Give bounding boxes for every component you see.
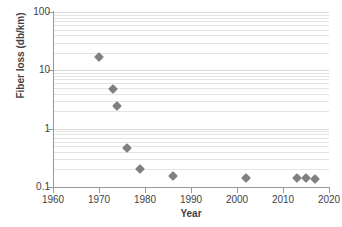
y-axis-tick-label: 1: [44, 124, 50, 134]
gridline: [53, 152, 329, 153]
x-axis-tick: [191, 188, 192, 193]
x-axis-tick: [237, 188, 238, 193]
gridline: [53, 35, 329, 36]
x-axis-tick: [145, 188, 146, 193]
gridline: [53, 169, 329, 170]
plot-area: [53, 12, 329, 187]
x-axis-tick-label: 1980: [125, 194, 165, 205]
x-axis-tick: [99, 188, 100, 193]
x-axis-tick-label: 2020: [309, 194, 342, 205]
x-axis-title: Year: [0, 208, 342, 219]
gridline: [53, 73, 329, 74]
y-axis-title: Fiber loss (db/km): [15, 0, 26, 131]
x-axis-tick-label: 1990: [171, 194, 211, 205]
x-axis-tick-label: 1960: [33, 194, 73, 205]
fiber-loss-scatter-chart: 0.11101001960197019801990200020102020 Ye…: [0, 0, 342, 227]
gridline: [53, 159, 329, 160]
y-axis-tick-label: 100: [33, 7, 50, 17]
x-axis-tick: [283, 188, 284, 193]
x-axis-tick-label: 1970: [79, 194, 119, 205]
gridline: [53, 15, 329, 16]
gridline: [53, 131, 329, 132]
gridline: [53, 83, 329, 84]
gridline: [53, 53, 329, 54]
x-axis-tick-label: 2010: [263, 194, 303, 205]
gridline: [53, 18, 329, 19]
gridline: [53, 134, 329, 135]
gridline: [53, 94, 329, 95]
gridline: [53, 142, 329, 143]
gridline: [53, 88, 329, 89]
x-axis-tick-label: 2000: [217, 194, 257, 205]
gridline: [53, 129, 329, 130]
y-axis-tick-label: 0.1: [36, 182, 50, 192]
y-axis-tick-label: 10: [39, 65, 50, 75]
gridline: [53, 43, 329, 44]
gridline: [53, 79, 329, 80]
gridline: [53, 76, 329, 77]
x-axis-tick: [329, 188, 330, 193]
gridline: [53, 111, 329, 112]
gridline: [53, 138, 329, 139]
gridline: [53, 25, 329, 26]
gridline: [53, 146, 329, 147]
y-axis-line: [53, 11, 54, 188]
gridline: [53, 70, 329, 71]
gridline: [53, 101, 329, 102]
gridline: [53, 30, 329, 31]
x-axis-tick: [53, 188, 54, 193]
gridline: [53, 21, 329, 22]
gridline: [53, 12, 329, 13]
